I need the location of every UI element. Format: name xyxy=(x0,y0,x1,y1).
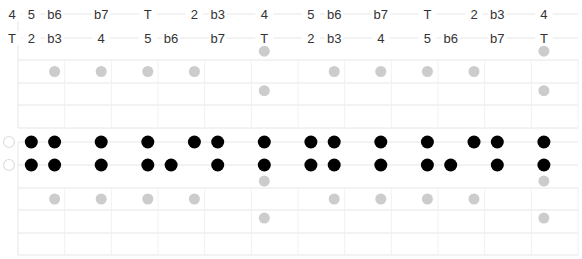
interval-label: 4 xyxy=(8,7,15,22)
note-dot xyxy=(211,159,224,172)
note-dot xyxy=(25,136,38,149)
ghost-dot xyxy=(469,66,480,77)
ghost-dot xyxy=(538,213,549,224)
note-dot xyxy=(491,136,504,149)
ghost-dot xyxy=(329,66,340,77)
ghost-dot xyxy=(422,194,433,205)
interval-label: b3 xyxy=(210,7,224,22)
note-dot xyxy=(95,159,108,172)
note-dot xyxy=(95,136,108,149)
note-dot xyxy=(141,136,154,149)
ghost-dot xyxy=(375,66,386,77)
open-string-marker xyxy=(4,137,15,148)
interval-label: T xyxy=(540,31,548,46)
ghost-dot xyxy=(422,66,433,77)
interval-label: 2 xyxy=(470,7,477,22)
ghost-dot xyxy=(189,194,200,205)
interval-label: b3 xyxy=(490,7,504,22)
interval-label: 4 xyxy=(377,31,384,46)
note-dot xyxy=(537,159,550,172)
interval-label: b6 xyxy=(164,31,178,46)
note-dots xyxy=(4,136,551,172)
ghost-dots xyxy=(49,46,549,224)
note-dot xyxy=(328,159,341,172)
ghost-dot xyxy=(142,66,153,77)
note-dot xyxy=(421,159,434,172)
interval-label: 4 xyxy=(540,7,547,22)
fretboard-diagram: 45b6b7T2b345b6b7T2b34T2b345b6b7T2b345b6b… xyxy=(0,0,582,259)
interval-label: 5 xyxy=(28,7,35,22)
ghost-dot xyxy=(329,194,340,205)
ghost-dot xyxy=(259,46,270,57)
ghost-dot xyxy=(96,194,107,205)
interval-label: T xyxy=(144,7,152,22)
note-dot xyxy=(48,159,61,172)
note-dot xyxy=(468,136,481,149)
note-dot xyxy=(537,136,550,149)
note-dot xyxy=(328,136,341,149)
note-dot xyxy=(258,136,271,149)
ghost-dot xyxy=(538,46,549,57)
ghost-dot xyxy=(189,66,200,77)
interval-label: b6 xyxy=(47,7,61,22)
note-dot xyxy=(444,159,457,172)
ghost-dot xyxy=(538,85,549,96)
note-dot xyxy=(421,136,434,149)
note-dot xyxy=(165,159,178,172)
interval-label: T xyxy=(260,31,268,46)
interval-label: b7 xyxy=(490,31,504,46)
interval-label: 5 xyxy=(144,31,151,46)
interval-label: T xyxy=(8,31,16,46)
ghost-dot xyxy=(259,213,270,224)
ghost-dot xyxy=(469,194,480,205)
interval-label: b6 xyxy=(443,31,457,46)
note-dot xyxy=(25,159,38,172)
interval-labels: 45b6b7T2b345b6b7T2b34T2b345b6b7T2b345b6b… xyxy=(3,7,553,46)
ghost-dot xyxy=(96,66,107,77)
interval-label: 4 xyxy=(98,31,105,46)
interval-label: 2 xyxy=(28,31,35,46)
ghost-dot xyxy=(259,176,270,187)
interval-label: b3 xyxy=(47,31,61,46)
note-dot xyxy=(374,159,387,172)
interval-label: 2 xyxy=(191,7,198,22)
ghost-dot xyxy=(142,194,153,205)
note-dot xyxy=(188,136,201,149)
ghost-dot xyxy=(259,85,270,96)
interval-label: 5 xyxy=(307,7,314,22)
ghost-dot xyxy=(375,194,386,205)
ghost-dot xyxy=(49,66,60,77)
open-string-marker xyxy=(4,160,15,171)
ghost-dot xyxy=(538,176,549,187)
interval-label: 2 xyxy=(307,31,314,46)
interval-label: 4 xyxy=(261,7,268,22)
interval-label: b3 xyxy=(327,31,341,46)
note-dot xyxy=(211,136,224,149)
interval-label: b6 xyxy=(327,7,341,22)
note-dot xyxy=(491,159,504,172)
note-dot xyxy=(304,136,317,149)
interval-label: b7 xyxy=(374,7,388,22)
note-dot xyxy=(258,159,271,172)
interval-label: b7 xyxy=(94,7,108,22)
note-dot xyxy=(374,136,387,149)
ghost-dot xyxy=(49,194,60,205)
note-dot xyxy=(141,159,154,172)
fretboard-svg: 45b6b7T2b345b6b7T2b34T2b345b6b7T2b345b6b… xyxy=(0,0,582,259)
interval-label: T xyxy=(423,7,431,22)
interval-label: b7 xyxy=(210,31,224,46)
note-dot xyxy=(48,136,61,149)
interval-label: 5 xyxy=(424,31,431,46)
note-dot xyxy=(304,159,317,172)
